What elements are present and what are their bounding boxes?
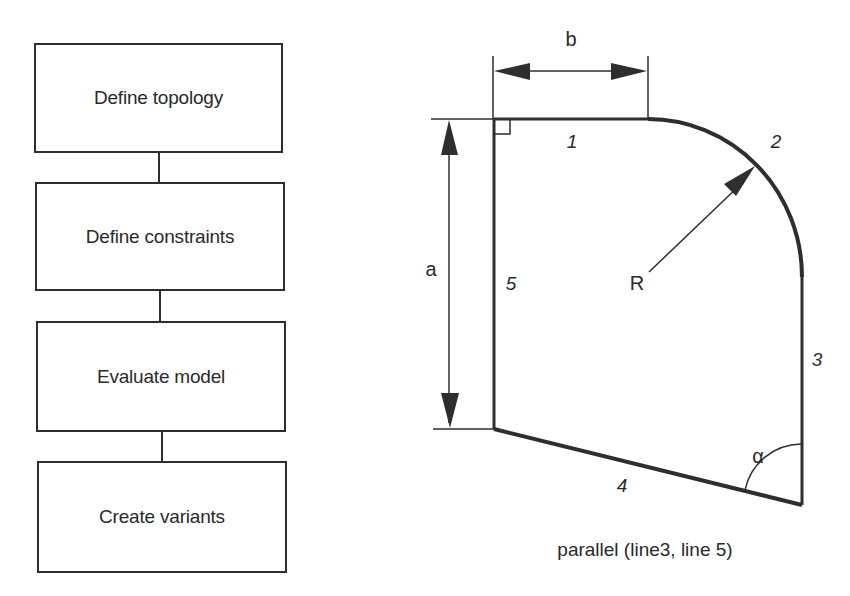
dimension-label-b: b: [565, 28, 576, 50]
dimension-b: [493, 56, 648, 119]
arrowhead-left-icon: [494, 63, 530, 80]
arrowhead-radius-icon: [724, 166, 755, 196]
arrowhead-right-icon: [611, 63, 647, 80]
edge-label-3: 3: [812, 349, 823, 370]
arrowhead-up-icon: [441, 120, 458, 155]
arrowhead-down-icon: [441, 393, 459, 428]
right-angle-marker: [495, 120, 510, 134]
radius-line: [649, 183, 742, 272]
edge-label-4: 4: [617, 475, 628, 496]
geometry-diagram: b a R α 1 2 3 4 5 parallel (line3, line …: [0, 0, 850, 596]
dimension-label-a: a: [425, 258, 437, 280]
angle-label-alpha: α: [752, 445, 764, 467]
dimension-a: [431, 119, 494, 429]
radius-label: R: [630, 272, 644, 294]
edge-label-2: 2: [770, 131, 782, 152]
radius-leader: [649, 166, 755, 272]
edge-label-1: 1: [567, 131, 578, 152]
edge-label-5: 5: [506, 273, 517, 294]
figure-canvas: Define topology Define constraints Evalu…: [0, 0, 850, 596]
constraint-caption: parallel (line3, line 5): [557, 539, 732, 560]
